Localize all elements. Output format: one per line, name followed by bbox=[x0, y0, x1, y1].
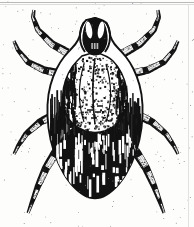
tick-illustration-canvas bbox=[0, 0, 194, 227]
tick-illustration-figure: Black and white scanned illustration of … bbox=[0, 0, 194, 227]
top-rule-dark bbox=[0, 2, 194, 3]
top-rule-light bbox=[0, 4, 194, 5]
right-rule bbox=[188, 5, 189, 227]
